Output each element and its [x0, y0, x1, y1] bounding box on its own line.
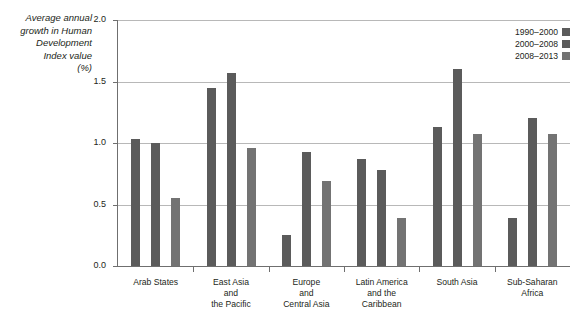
- bar: [227, 73, 236, 266]
- y-tick-mark: [113, 266, 118, 267]
- gridline: [118, 205, 570, 206]
- x-category-label: Arab States: [118, 277, 193, 288]
- bar: [397, 218, 406, 266]
- bar: [357, 159, 366, 266]
- legend-label: 2000–2008: [515, 39, 558, 49]
- x-category-label: Sub-Saharan Africa: [495, 277, 570, 299]
- legend-swatch: [562, 52, 570, 60]
- bar: [433, 127, 442, 266]
- bar: [322, 181, 331, 266]
- plot-area: [118, 20, 570, 266]
- legend-item: 2000–2008: [515, 39, 570, 49]
- bar: [528, 118, 537, 266]
- gridline: [118, 82, 570, 83]
- bar: [151, 143, 160, 266]
- x-category-label: Europe and Central Asia: [269, 277, 344, 310]
- bar: [207, 88, 216, 266]
- y-tick-label: 1.0: [80, 138, 106, 147]
- y-tick-mark: [113, 20, 118, 21]
- bar: [377, 170, 386, 266]
- legend-item: 2008–2013: [515, 51, 570, 61]
- gridline: [118, 143, 570, 144]
- x-category-label: East Asia and the Pacific: [193, 277, 268, 310]
- x-category-label: Latin America and the Caribbean: [344, 277, 419, 310]
- x-tick-mark: [419, 267, 420, 272]
- bar: [282, 235, 291, 266]
- y-tick-label: 0.0: [80, 261, 106, 270]
- legend-swatch: [562, 28, 570, 36]
- y-tick-label: 1.5: [80, 77, 106, 86]
- bar: [473, 134, 482, 266]
- y-tick-mark: [113, 205, 118, 206]
- x-tick-mark: [344, 267, 345, 272]
- x-tick-mark: [269, 267, 270, 272]
- bar: [302, 152, 311, 266]
- y-tick-mark: [113, 82, 118, 83]
- x-category-label: South Asia: [419, 277, 494, 288]
- y-tick-label: 2.0: [80, 15, 106, 24]
- bar: [508, 218, 517, 266]
- bar: [131, 139, 140, 266]
- y-axis-title: Average annual growth in Human Developme…: [0, 12, 92, 75]
- legend-swatch: [562, 40, 570, 48]
- legend-label: 1990–2000: [515, 27, 558, 37]
- bar: [453, 69, 462, 266]
- y-tick-label: 0.5: [80, 200, 106, 209]
- bar: [171, 198, 180, 266]
- bar: [247, 148, 256, 266]
- legend-label: 2008–2013: [515, 51, 558, 61]
- bar: [548, 134, 557, 266]
- legend-item: 1990–2000: [515, 27, 570, 37]
- x-tick-mark: [193, 267, 194, 272]
- legend: 1990–20002000–20082008–2013: [515, 27, 570, 61]
- x-tick-mark: [495, 267, 496, 272]
- gridline: [118, 20, 570, 21]
- y-tick-mark: [113, 143, 118, 144]
